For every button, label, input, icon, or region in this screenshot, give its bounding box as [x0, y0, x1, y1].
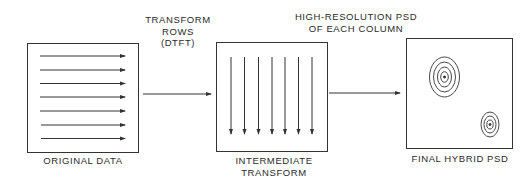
high-resolution-psd-label: HIGH-RESOLUTION PSD OF EACH COLUMN	[288, 11, 424, 34]
hybrid-psd-diagram: TRANSFORM ROWS (DTFT) HIGH-RESOLUTION PS…	[0, 0, 528, 184]
row-arrows	[40, 56, 125, 139]
intermediate-transform-box	[217, 43, 328, 152]
final-hybrid-psd-label: FINAL HYBRID PSD	[400, 153, 520, 165]
transform-rows-label: TRANSFORM ROWS (DTFT)	[138, 14, 218, 49]
original-data-box	[28, 44, 139, 153]
final-hybrid-psd-box	[407, 39, 513, 149]
column-arrows	[231, 57, 312, 134]
spectral-peak-large	[430, 57, 460, 97]
original-data-label: ORIGINAL DATA	[23, 155, 143, 167]
spectral-peak-small	[481, 112, 499, 137]
intermediate-transform-label: INTERMEDIATE TRANSFORM	[217, 155, 331, 178]
